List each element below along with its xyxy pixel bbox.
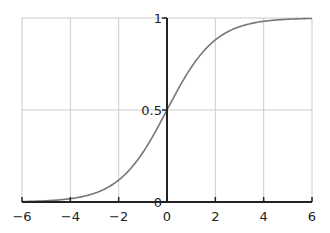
x-tick-label: −2 [109, 209, 128, 224]
y-tick-label: 0.5 [141, 103, 162, 118]
x-tick-label: 0 [163, 209, 171, 224]
x-tick-label: −6 [12, 209, 31, 224]
x-tick-label: 6 [308, 209, 316, 224]
y-tick-label: 1 [154, 11, 162, 26]
sigmoid-chart: −6−4−20246 00.51 [0, 0, 330, 233]
y-tick-label: 0 [154, 195, 162, 210]
x-tick-label: 2 [211, 209, 219, 224]
y-axis-ticks: 00.51 [141, 11, 167, 210]
x-tick-label: 4 [260, 209, 268, 224]
x-tick-label: −4 [61, 209, 80, 224]
